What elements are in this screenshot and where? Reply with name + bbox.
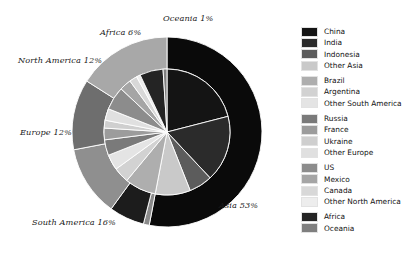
legend-item[interactable]: Indonesia [301, 49, 405, 60]
ring-label: Europe 12% [20, 128, 72, 136]
legend-swatch [301, 148, 318, 158]
legend-item[interactable]: Russia [301, 113, 405, 124]
legend-label: Argentina [324, 88, 360, 95]
legend-label: Canada [324, 187, 352, 194]
legend-group-asia: ChinaIndiaIndonesiaOther Asia [301, 26, 405, 71]
legend-item[interactable]: India [301, 37, 405, 48]
chart-page: Oceania 1%Africa 6%North America 12%Euro… [0, 0, 407, 262]
legend-item[interactable]: Africa [301, 211, 405, 222]
legend-label: Russia [324, 115, 348, 122]
legend-swatch [301, 61, 318, 71]
legend-label: India [324, 39, 342, 46]
chart-legend: ChinaIndiaIndonesiaOther AsiaBrazilArgen… [301, 26, 405, 234]
legend-swatch [301, 186, 318, 196]
legend-group-south-america: BrazilArgentinaOther South America [301, 75, 405, 109]
legend-swatch [301, 223, 318, 233]
ring-label: Oceania 1% [163, 14, 213, 22]
legend-label: France [324, 126, 349, 133]
legend-item[interactable]: Brazil [301, 75, 405, 86]
legend-label: Oceania [324, 225, 354, 232]
legend-swatch [301, 114, 318, 124]
legend-group-europe: RussiaFranceUkraineOther Europe [301, 113, 405, 158]
legend-item[interactable]: China [301, 26, 405, 37]
legend-swatch [301, 76, 318, 86]
legend-swatch [301, 212, 318, 222]
legend-item[interactable]: France [301, 124, 405, 135]
legend-label: Africa [324, 213, 345, 220]
legend-swatch [301, 98, 318, 108]
legend-item[interactable]: Other North America [301, 196, 405, 207]
legend-group-africa-oceania: AfricaOceania [301, 211, 405, 234]
legend-item[interactable]: Mexico [301, 174, 405, 185]
legend-label: US [324, 164, 334, 171]
ring-label: Africa 6% [100, 28, 141, 36]
legend-swatch [301, 38, 318, 48]
legend-item[interactable]: Other Asia [301, 60, 405, 71]
legend-label: Other Europe [324, 149, 373, 156]
legend-label: Indonesia [324, 51, 360, 58]
nested-pie-chart: Oceania 1%Africa 6%North America 12%Euro… [0, 0, 290, 262]
inner-pie [104, 69, 230, 195]
legend-swatch [301, 49, 318, 59]
legend-item[interactable]: US [301, 162, 405, 173]
legend-label: Ukraine [324, 138, 353, 145]
legend-item[interactable]: Other South America [301, 98, 405, 109]
legend-label: Mexico [324, 176, 350, 183]
legend-swatch [301, 197, 318, 207]
legend-label: Brazil [324, 77, 345, 84]
legend-label: China [324, 28, 345, 35]
legend-swatch [301, 174, 318, 184]
legend-item[interactable]: Other Europe [301, 147, 405, 158]
legend-swatch [301, 125, 318, 135]
ring-label: Asia 53% [219, 201, 258, 209]
legend-swatch [301, 163, 318, 173]
legend-item[interactable]: Oceania [301, 223, 405, 234]
ring-label: North America 12% [18, 56, 102, 64]
legend-item[interactable]: Canada [301, 185, 405, 196]
legend-swatch [301, 136, 318, 146]
legend-item[interactable]: Ukraine [301, 136, 405, 147]
legend-label: Other North America [324, 198, 401, 205]
legend-label: Other South America [324, 100, 402, 107]
legend-group-north-america: USMexicoCanadaOther North America [301, 162, 405, 207]
ring-label: South America 16% [32, 218, 116, 226]
legend-swatch [301, 27, 318, 37]
legend-label: Other Asia [324, 62, 363, 69]
legend-item[interactable]: Argentina [301, 86, 405, 97]
legend-swatch [301, 87, 318, 97]
